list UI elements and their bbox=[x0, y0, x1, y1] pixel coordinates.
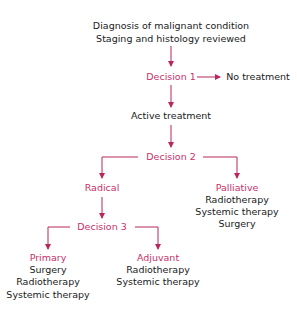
palliative-item: Radiotherapy bbox=[205, 194, 269, 206]
palliative-item: Systemic therapy bbox=[195, 206, 278, 218]
radical-label: Radical bbox=[85, 182, 120, 194]
adjuvant-item: Systemic therapy bbox=[116, 276, 199, 288]
primary-item: Radiotherapy bbox=[16, 276, 80, 288]
active-treatment-label: Active treatment bbox=[131, 110, 211, 122]
primary-label: Primary bbox=[30, 252, 67, 264]
adjuvant-item: Radiotherapy bbox=[126, 264, 190, 276]
no-treatment-label: No treatment bbox=[226, 71, 290, 83]
palliative-item: Surgery bbox=[218, 218, 255, 230]
arrow-decision3-to-adjuvant bbox=[135, 227, 158, 249]
decision1-label: Decision 1 bbox=[146, 71, 196, 83]
root-line2: Staging and histology reviewed bbox=[96, 33, 246, 45]
arrow-decision3-to-primary bbox=[48, 227, 70, 249]
palliative-label: Palliative bbox=[216, 182, 259, 194]
root-line1: Diagnosis of malignant condition bbox=[93, 20, 249, 32]
primary-item: Surgery bbox=[29, 264, 66, 276]
adjuvant-label: Adjuvant bbox=[137, 252, 179, 264]
arrow-decision2-to-radical bbox=[102, 157, 138, 178]
decision2-label: Decision 2 bbox=[146, 151, 196, 163]
decision3-label: Decision 3 bbox=[77, 221, 127, 233]
arrow-decision2-to-palliative bbox=[203, 157, 237, 178]
primary-item: Systemic therapy bbox=[6, 289, 89, 301]
